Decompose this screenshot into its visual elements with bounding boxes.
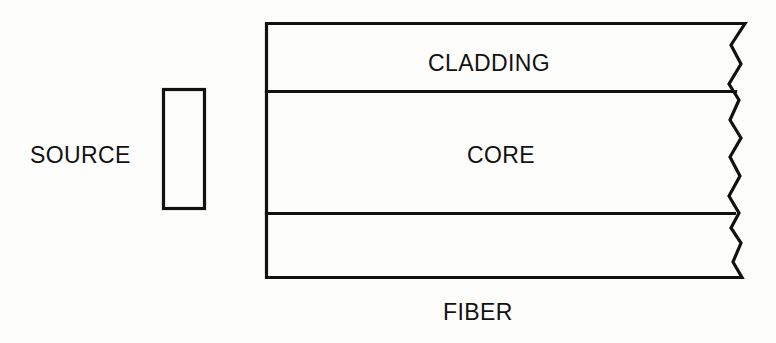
source-emitter-box (164, 90, 205, 209)
core-label: CORE (467, 142, 535, 168)
fiber-label: FIBER (443, 299, 513, 325)
fiber-diagram: SOURCE CLADDING CORE FIBER (0, 0, 776, 343)
cladding-label: CLADDING (428, 50, 550, 76)
diagram-canvas: SOURCE CLADDING CORE FIBER (0, 0, 776, 343)
source-label: SOURCE (30, 142, 131, 168)
